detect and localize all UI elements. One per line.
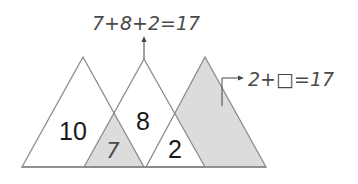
- region-left-overlap-value: 7: [106, 139, 120, 163]
- region-middle-value: 8: [136, 107, 150, 135]
- region-right-overlap-value: 2: [168, 135, 182, 163]
- up-arrow-icon: [142, 36, 147, 59]
- triangle-number-diagram: 7+8+2=17 2+□=17 10 7 8 2: [0, 0, 358, 184]
- right-equation: 2+□=17: [248, 68, 334, 90]
- top-equation: 7+8+2=17: [92, 12, 200, 34]
- region-left-value: 10: [59, 117, 87, 145]
